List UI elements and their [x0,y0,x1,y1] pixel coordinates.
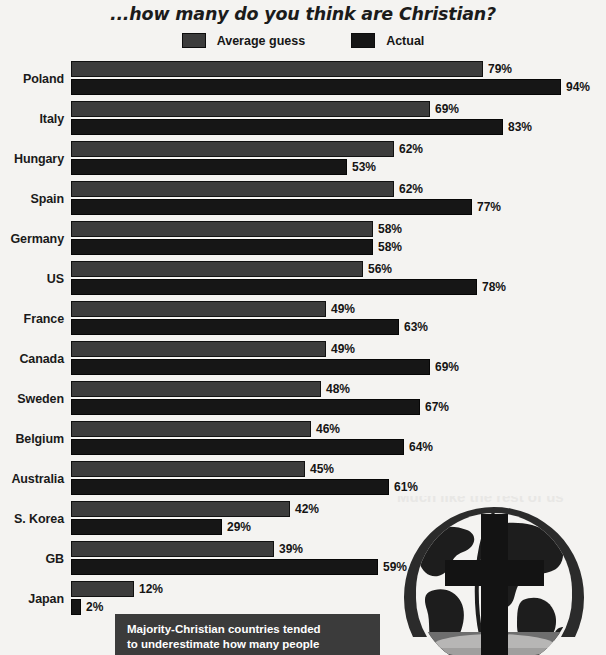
bar-value-label: 12% [139,582,163,596]
bar-value-label: 79% [488,62,512,76]
bar-value-label: 77% [477,200,501,214]
bar-group: 49%69% [71,339,606,379]
bar-guess[interactable]: 39% [71,541,303,557]
bar-guess[interactable]: 48% [71,381,350,397]
bar-guess[interactable]: 49% [71,301,355,317]
bar-actual[interactable]: 94% [71,79,590,95]
infographic-root: If you had to guess, out of every 100 pe… [0,0,606,655]
country-label-italy: Italy [0,99,64,139]
bar-guess[interactable]: 45% [71,461,334,477]
title-line-lower: ...how many do you think are Christian? [0,4,606,24]
bar-actual[interactable]: 64% [71,439,433,455]
bar-group: 69%83% [71,99,606,139]
country-label-canada: Canada [0,339,64,379]
bar-fill [71,399,420,415]
legend-label-average-guess: Average guess [217,34,305,48]
bar-group: 56%78% [71,259,606,299]
bar-fill [71,181,394,197]
bar-value-label: 2% [86,600,103,614]
bar-fill [71,581,134,597]
bar-guess[interactable]: 79% [71,61,512,77]
country-label-us: US [0,259,64,299]
bar-fill [71,381,321,397]
bar-value-label: 67% [425,400,449,414]
bar-fill [71,359,430,375]
bar-actual[interactable]: 61% [71,479,418,495]
legend-item-actual: Actual [351,33,424,48]
bar-value-label: 61% [394,480,418,494]
bar-fill [71,119,503,135]
bar-fill [71,79,561,95]
chart-row: Hungary62%53% [0,139,606,179]
bar-group: 39%59% [71,539,606,579]
bar-actual[interactable]: 2% [71,599,103,615]
chart-row: Japan12%2% [0,579,606,619]
bar-value-label: 45% [310,462,334,476]
legend-item-average-guess: Average guess [182,33,305,48]
caption-box: Majority-Christian countries tended to u… [115,614,380,655]
bar-actual[interactable]: 67% [71,399,449,415]
bar-group: 49%63% [71,299,606,339]
bar-guess[interactable]: 69% [71,101,459,117]
bar-fill [71,141,394,157]
bar-actual[interactable]: 77% [71,199,501,215]
chart-row: Belgium46%64% [0,419,606,459]
legend-swatch-actual [351,33,375,48]
chart-legend: Average guess Actual [0,33,606,48]
bar-value-label: 39% [279,542,303,556]
bar-value-label: 48% [326,382,350,396]
bar-guess[interactable]: 56% [71,261,392,277]
bar-actual[interactable]: 83% [71,119,532,135]
chart-row: France49%63% [0,299,606,339]
country-label-spain: Spain [0,179,64,219]
bar-guess[interactable]: 62% [71,181,423,197]
country-label-gb: GB [0,539,64,579]
bar-value-label: 62% [399,182,423,196]
bar-actual[interactable]: 59% [71,559,407,575]
country-label-s-korea: S. Korea [0,499,64,539]
bar-fill [71,261,363,277]
bar-value-label: 49% [331,302,355,316]
bar-actual[interactable]: 78% [71,279,506,295]
bar-value-label: 58% [378,222,402,236]
bar-value-label: 69% [435,102,459,116]
country-label-hungary: Hungary [0,139,64,179]
country-label-germany: Germany [0,219,64,259]
bar-group: 62%53% [71,139,606,179]
country-label-poland: Poland [0,59,64,99]
bar-value-label: 46% [316,422,340,436]
bar-guess[interactable]: 62% [71,141,423,157]
chart-row: Germany58%58% [0,219,606,259]
bar-actual[interactable]: 29% [71,519,251,535]
bar-group: 12%2% [71,579,606,619]
bar-actual[interactable]: 58% [71,239,402,255]
bar-guess[interactable]: 58% [71,221,402,237]
bar-actual[interactable]: 53% [71,159,376,175]
country-label-japan: Japan [0,579,64,619]
country-label-australia: Australia [0,459,64,499]
legend-swatch-average-guess [182,33,206,48]
country-label-belgium: Belgium [0,419,64,459]
chart-row: S. Korea42%29% [0,499,606,539]
bar-value-label: 62% [399,142,423,156]
bar-guess[interactable]: 46% [71,421,340,437]
bar-fill [71,101,430,117]
chart-row: Australia45%61% [0,459,606,499]
bar-actual[interactable]: 69% [71,359,459,375]
bar-fill [71,301,326,317]
chart-row: Canada49%69% [0,339,606,379]
bar-value-label: 58% [378,240,402,254]
bar-guess[interactable]: 42% [71,501,319,517]
bar-value-label: 78% [482,280,506,294]
bar-actual[interactable]: 63% [71,319,428,335]
country-label-france: France [0,299,64,339]
bar-guess[interactable]: 12% [71,581,163,597]
bar-guess[interactable]: 49% [71,341,355,357]
bar-value-label: 69% [435,360,459,374]
bar-fill [71,279,477,295]
bar-value-label: 56% [368,262,392,276]
bar-group: 79%94% [71,59,606,99]
bar-value-label: 63% [404,320,428,334]
bar-fill [71,239,373,255]
bar-fill [71,319,399,335]
